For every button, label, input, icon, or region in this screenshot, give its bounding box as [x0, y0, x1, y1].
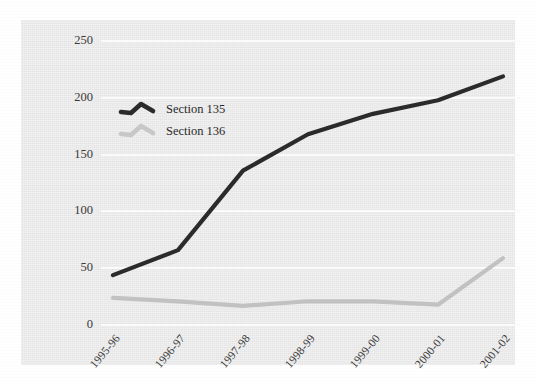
- legend-label-section-136: Section 136: [166, 124, 225, 139]
- xtick-label-3: 1998-99: [282, 332, 317, 370]
- legend-marker-section-135: [118, 100, 158, 118]
- chart-legend: Section 135 Section 136: [118, 98, 308, 142]
- xtick-label-4: 1999-00: [347, 332, 382, 370]
- ytick-label-250: 250: [74, 33, 93, 48]
- ytick-label-100: 100: [74, 203, 93, 218]
- xtick-label-0: 1995-96: [87, 332, 122, 370]
- xtick-label-6: 2001-02: [477, 332, 512, 370]
- xtick-label-1: 1996-97: [152, 332, 187, 370]
- series-line-section-135: [113, 258, 503, 306]
- legend-item-section-135: Section 135: [118, 98, 308, 120]
- legend-label-section-135: Section 135: [166, 102, 225, 117]
- series-lines: [101, 40, 521, 324]
- xtick-label-5: 2000-01: [412, 332, 447, 370]
- ytick-label-0: 0: [87, 317, 93, 332]
- plot-panel: 250 200 150 100 50 0 1995-96 1996-97 199…: [21, 20, 515, 365]
- legend-marker-section-136: [118, 122, 158, 140]
- ytick-label-50: 50: [81, 260, 94, 275]
- ytick-label-150: 150: [74, 146, 93, 161]
- legend-item-section-136: Section 136: [118, 120, 308, 142]
- plot-area: 250 200 150 100 50 0 1995-96 1996-97 199…: [101, 40, 521, 324]
- xtick-label-2: 1997-98: [217, 332, 252, 370]
- ytick-label-200: 200: [74, 89, 93, 104]
- gridline-0: 0: [101, 324, 521, 326]
- line-chart-figure: 250 200 150 100 50 0 1995-96 1996-97 199…: [0, 0, 536, 381]
